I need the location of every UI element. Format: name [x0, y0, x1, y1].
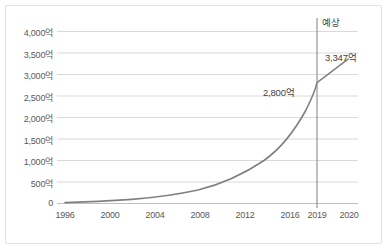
- ytick-4000: 4,000억: [5, 26, 53, 39]
- forecast-annotation-label: 예상: [322, 15, 340, 29]
- xtick-2020: 2020: [329, 210, 369, 220]
- data-label-2019: 2,800억: [263, 85, 295, 99]
- ytick-2000: 2,000억: [5, 112, 53, 125]
- ytick-1500: 1,500억: [5, 134, 53, 147]
- ytick-1000: 1,000억: [5, 155, 53, 168]
- gridlines: [57, 32, 358, 183]
- chart-container: 4,000억 3,500억 3,000억 2,500억 2,000억 1,500…: [0, 0, 387, 249]
- ytick-3500: 3,500억: [5, 48, 53, 61]
- ytick-3000: 3,000억: [5, 69, 53, 82]
- ytick-2500: 2,500억: [5, 91, 53, 104]
- data-series-line: [65, 59, 348, 203]
- data-label-2020: 3,347억: [325, 50, 357, 64]
- xtick-2000: 2000: [90, 210, 130, 220]
- ytick-500: 500억: [5, 177, 53, 190]
- xtick-2008: 2008: [180, 210, 220, 220]
- xtick-2004: 2004: [135, 210, 175, 220]
- xtick-2012: 2012: [225, 210, 265, 220]
- xtick-1996: 1996: [45, 210, 85, 220]
- ytick-0: 0: [5, 198, 53, 208]
